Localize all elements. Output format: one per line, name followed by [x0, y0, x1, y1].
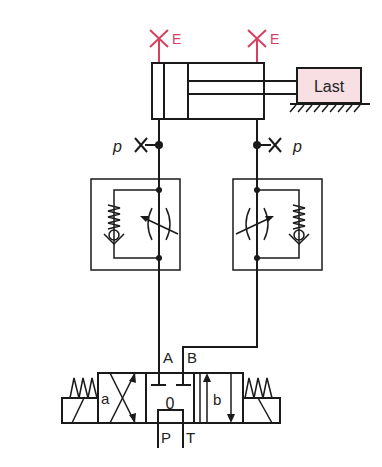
- vent-left-label: E: [172, 31, 181, 47]
- gauge-left-label: p: [112, 138, 122, 155]
- port-p-label: P: [161, 429, 171, 446]
- port-t-label: T: [186, 429, 195, 446]
- position-0-label: 0: [166, 395, 175, 412]
- hydraulic-diagram: E E Last: [0, 0, 382, 467]
- position-a-label: a: [101, 390, 110, 407]
- vent-left: E: [150, 30, 181, 63]
- load: Last: [290, 68, 370, 112]
- load-label: Last: [314, 78, 345, 95]
- gauge-right: p: [253, 138, 302, 155]
- gauge-left: p: [112, 138, 163, 155]
- gauge-right-label: p: [292, 138, 302, 155]
- vent-right-label: E: [270, 31, 279, 47]
- flow-control-valve-left: [91, 179, 180, 270]
- flow-control-valve-right: [233, 179, 322, 270]
- port-a-label: A: [163, 349, 173, 366]
- position-b-label: b: [213, 391, 221, 408]
- vent-right: E: [248, 30, 279, 63]
- directional-valve: A B a 0 b P T: [62, 349, 280, 448]
- port-b-label: B: [187, 349, 197, 366]
- cylinder: [152, 63, 297, 119]
- line-b: [183, 119, 257, 385]
